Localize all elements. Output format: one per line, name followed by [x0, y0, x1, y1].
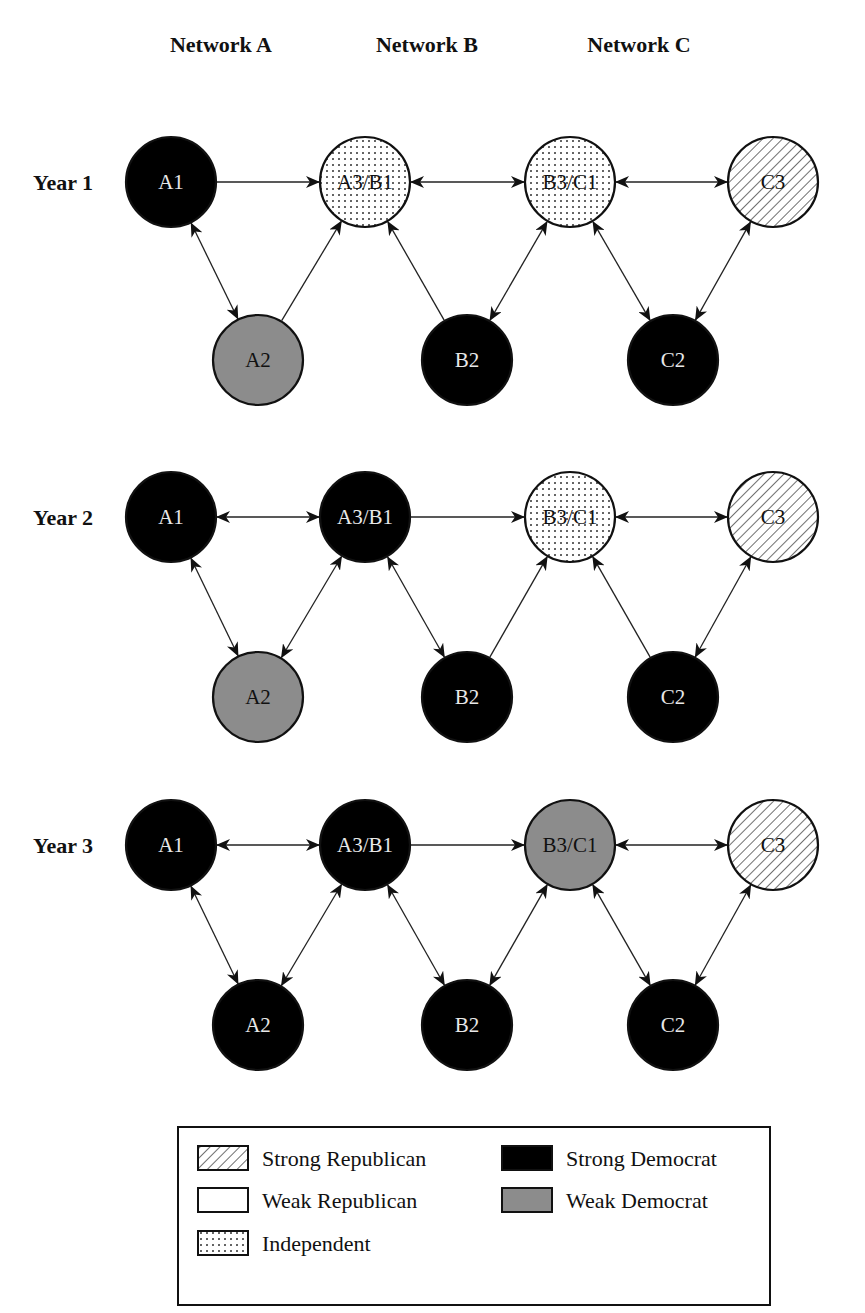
year-label: Year 1 — [33, 170, 93, 195]
legend-swatch-strong-republican — [198, 1146, 248, 1170]
bidirectional-edge-a2-a3-b1 — [282, 557, 342, 658]
legend-swatch-weak-republican — [198, 1188, 248, 1212]
node-label: A1 — [158, 833, 184, 857]
node-b3-c1: B3/C1 — [525, 800, 615, 890]
directed-edge-b2-b3-c1 — [490, 557, 547, 657]
nodes: A1A3/B1B3/C1C3A2B2C2 — [126, 800, 818, 1070]
bidirectional-edge-a2-a3-b1 — [282, 885, 342, 986]
legend-item-strong-democrat: Strong Democrat — [502, 1146, 717, 1171]
nodes: A1A3/B1B3/C1C3A2B2C2 — [126, 137, 818, 405]
node-b2: B2 — [422, 315, 512, 405]
column-headers: Network A Network B Network C — [170, 32, 691, 57]
node-label: B2 — [455, 1013, 480, 1037]
bidirectional-edge-a3-b1-b2 — [388, 557, 445, 657]
node-label: A2 — [245, 1013, 271, 1037]
node-label: A3/B1 — [337, 170, 393, 194]
node-label: C3 — [761, 833, 786, 857]
node-a1: A1 — [126, 800, 216, 890]
legend-label: Strong Republican — [262, 1146, 426, 1171]
directed-edge-c2-b3-c1 — [593, 557, 650, 657]
node-label: A2 — [245, 685, 271, 709]
directed-edge-b2-a3-b1 — [388, 222, 444, 320]
legend-item-independent: Independent — [198, 1231, 371, 1256]
bidirectional-edge-b2-b3-c1 — [490, 222, 547, 320]
legend: Strong RepublicanWeak RepublicanIndepend… — [178, 1127, 770, 1305]
network-diagram: Network A Network B Network C Year 1A1A3… — [0, 0, 865, 1313]
legend-label: Weak Democrat — [566, 1188, 708, 1213]
node-label: A3/B1 — [337, 505, 393, 529]
column-header-network-b: Network B — [376, 32, 478, 57]
bidirectional-edge-b3-c1-c2 — [593, 885, 650, 985]
bidirectional-edge-a1-a2 — [191, 558, 238, 655]
edges — [191, 182, 750, 321]
legend-item-weak-republican: Weak Republican — [198, 1188, 417, 1213]
node-label: C2 — [661, 348, 686, 372]
bidirectional-edge-c2-c3 — [695, 557, 750, 657]
edges — [191, 845, 751, 985]
node-c2: C2 — [628, 652, 718, 742]
year-panel-2: Year 2A1A3/B1B3/C1C3A2B2C2 — [33, 472, 818, 742]
bidirectional-edge-a3-b1-b2 — [388, 885, 445, 985]
node-label: A1 — [158, 505, 184, 529]
node-c3: C3 — [728, 137, 818, 227]
node-label: B3/C1 — [543, 170, 598, 194]
legend-swatch-independent — [198, 1231, 248, 1255]
legend-swatch-weak-democrat — [502, 1188, 552, 1212]
node-a3-b1: A3/B1 — [320, 472, 410, 562]
legend-label: Strong Democrat — [566, 1146, 717, 1171]
node-b3-c1: B3/C1 — [525, 472, 615, 562]
legend-label: Weak Republican — [262, 1188, 417, 1213]
node-a1: A1 — [126, 472, 216, 562]
year-panel-1: Year 1A1A3/B1B3/C1C3A2B2C2 — [33, 137, 818, 405]
node-c2: C2 — [628, 980, 718, 1070]
node-c3: C3 — [728, 472, 818, 562]
node-b3-c1: B3/C1 — [525, 137, 615, 227]
directed-edge-a2-a3-b1 — [282, 221, 342, 320]
node-a2: A2 — [213, 652, 303, 742]
legend-item-strong-republican: Strong Republican — [198, 1146, 426, 1171]
node-label: B2 — [455, 685, 480, 709]
node-a2: A2 — [213, 315, 303, 405]
node-label: B2 — [455, 348, 480, 372]
column-header-network-a: Network A — [170, 32, 272, 57]
bidirectional-edge-b3-c1-c2 — [593, 222, 650, 320]
node-a1: A1 — [126, 137, 216, 227]
nodes: A1A3/B1B3/C1C3A2B2C2 — [126, 472, 818, 742]
bidirectional-edge-c2-c3 — [696, 222, 751, 320]
year-label: Year 2 — [33, 505, 93, 530]
year-label: Year 3 — [33, 833, 93, 858]
node-b2: B2 — [422, 980, 512, 1070]
node-label: C2 — [661, 1013, 686, 1037]
column-header-network-c: Network C — [587, 32, 690, 57]
edges — [191, 517, 751, 657]
node-c2: C2 — [628, 315, 718, 405]
node-a3-b1: A3/B1 — [320, 137, 410, 227]
years-layer: Year 1A1A3/B1B3/C1C3A2B2C2Year 2A1A3/B1B… — [33, 137, 818, 1070]
node-label: A2 — [245, 348, 271, 372]
node-b2: B2 — [422, 652, 512, 742]
node-a2: A2 — [213, 980, 303, 1070]
node-label: B3/C1 — [543, 505, 598, 529]
bidirectional-edge-b2-b3-c1 — [490, 885, 547, 985]
node-label: B3/C1 — [543, 833, 598, 857]
bidirectional-edge-a1-a2 — [191, 223, 238, 318]
bidirectional-edge-c2-c3 — [695, 885, 750, 985]
legend-item-weak-democrat: Weak Democrat — [502, 1188, 708, 1213]
legend-label: Independent — [262, 1231, 371, 1256]
node-label: C2 — [661, 685, 686, 709]
bidirectional-edge-a1-a2 — [191, 886, 238, 983]
node-label: C3 — [761, 505, 786, 529]
node-label: A3/B1 — [337, 833, 393, 857]
node-a3-b1: A3/B1 — [320, 800, 410, 890]
year-panel-3: Year 3A1A3/B1B3/C1C3A2B2C2 — [33, 800, 818, 1070]
node-c3: C3 — [728, 800, 818, 890]
node-label: C3 — [761, 170, 786, 194]
legend-swatch-strong-democrat — [502, 1146, 552, 1170]
node-label: A1 — [158, 170, 184, 194]
